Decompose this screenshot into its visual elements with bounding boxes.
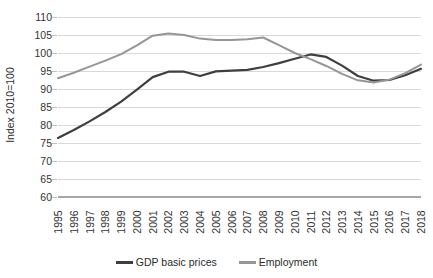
x-tick-label-text: 2017 — [400, 210, 411, 233]
y-tick-label: 100 — [6, 48, 52, 59]
x-tick-label-text: 2012 — [321, 210, 332, 233]
y-tick-mark — [52, 53, 57, 54]
series-line-gdp-basic-prices — [58, 54, 421, 138]
series-line-employment — [58, 34, 421, 83]
x-tick-label: 2009 — [272, 200, 286, 246]
y-tick-mark — [52, 161, 57, 162]
x-tick-label-text: 1999 — [116, 210, 127, 233]
y-tick-label: 90 — [6, 84, 52, 95]
series-lines — [58, 17, 421, 197]
y-tick-label: 65 — [6, 174, 52, 185]
x-tick-label: 2016 — [382, 200, 396, 246]
y-tick-mark — [52, 125, 57, 126]
x-tick-label: 2010 — [288, 200, 302, 246]
y-tick-mark — [52, 89, 57, 90]
x-tick-label: 1998 — [98, 200, 112, 246]
x-tick-label-text: 2009 — [274, 210, 285, 233]
x-tick-label: 2002 — [161, 200, 175, 246]
x-tick-label-text: 2008 — [258, 210, 269, 233]
x-tick-label: 2008 — [256, 200, 270, 246]
legend-swatch-icon — [239, 261, 256, 264]
y-tick-label: 95 — [6, 66, 52, 77]
x-tick-label: 2012 — [319, 200, 333, 246]
y-tick-label: 80 — [6, 120, 52, 131]
y-tick-mark — [52, 71, 57, 72]
x-axis-ticks: 1995199619971998199920002001200220032004… — [58, 200, 421, 250]
y-tick-mark — [52, 197, 57, 198]
x-tick-label: 2013 — [335, 200, 349, 246]
y-tick-label: 110 — [6, 12, 52, 23]
y-tick-mark — [52, 143, 57, 144]
x-tick-label: 2017 — [398, 200, 412, 246]
x-tick-label-text: 2015 — [368, 210, 379, 233]
gridline — [58, 197, 421, 198]
y-tick-label: 105 — [6, 30, 52, 41]
y-tick-label: 75 — [6, 138, 52, 149]
legend-label: GDP basic prices — [136, 257, 217, 268]
x-tick-label: 1997 — [83, 200, 97, 246]
x-tick-label: 1999 — [114, 200, 128, 246]
y-tick-label: 60 — [6, 192, 52, 203]
plot-area — [58, 17, 421, 197]
x-tick-label: 1996 — [67, 200, 81, 246]
x-tick-label-text: 1996 — [69, 210, 80, 233]
line-chart: Index 2010=100 6065707580859095100105110… — [0, 0, 433, 278]
x-tick-label: 2007 — [240, 200, 254, 246]
x-tick-label-text: 2000 — [132, 210, 143, 233]
y-tick-label: 70 — [6, 156, 52, 167]
x-tick-label: 2001 — [146, 200, 160, 246]
x-tick-label-text: 1997 — [84, 210, 95, 233]
chart-legend: GDP basic pricesEmployment — [0, 252, 433, 272]
x-tick-label: 2000 — [130, 200, 144, 246]
x-tick-label-text: 2010 — [289, 210, 300, 233]
x-tick-label-text: 2011 — [305, 211, 316, 234]
x-tick-label-text: 2001 — [147, 210, 158, 233]
x-tick-label: 2006 — [225, 200, 239, 246]
x-tick-label: 2005 — [209, 200, 223, 246]
legend-swatch-icon — [116, 261, 133, 264]
x-tick-label: 2011 — [304, 200, 318, 246]
x-tick-label-text: 2016 — [384, 210, 395, 233]
x-tick-label: 2003 — [177, 200, 191, 246]
x-tick-label-text: 2018 — [416, 210, 427, 233]
x-tick-label: 2015 — [367, 200, 381, 246]
x-tick-label: 2014 — [351, 200, 365, 246]
y-axis-ticks: 6065707580859095100105110 — [0, 0, 52, 278]
x-tick-label: 2018 — [414, 200, 428, 246]
x-tick-label-text: 2003 — [179, 210, 190, 233]
y-tick-mark — [52, 17, 57, 18]
x-tick-label: 2004 — [193, 200, 207, 246]
y-tick-mark — [52, 35, 57, 36]
x-tick-label-text: 1995 — [53, 210, 64, 233]
legend-item[interactable]: Employment — [239, 257, 317, 268]
x-tick-label-text: 2002 — [163, 210, 174, 233]
x-tick-label-text: 2005 — [211, 210, 222, 233]
x-tick-label-text: 2013 — [337, 210, 348, 233]
legend-item[interactable]: GDP basic prices — [116, 257, 217, 268]
y-tick-mark — [52, 179, 57, 180]
x-tick-label-text: 2004 — [195, 210, 206, 233]
x-tick-label-text: 2014 — [353, 210, 364, 233]
x-tick-label-text: 2007 — [242, 210, 253, 233]
legend-label: Employment — [259, 257, 317, 268]
x-tick-label-text: 1998 — [100, 210, 111, 233]
x-tick-label: 1995 — [51, 200, 65, 246]
y-tick-label: 85 — [6, 102, 52, 113]
y-tick-mark — [52, 107, 57, 108]
x-tick-label-text: 2006 — [226, 210, 237, 233]
